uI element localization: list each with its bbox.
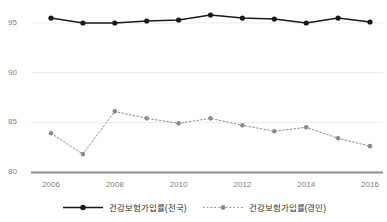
data-point — [272, 16, 277, 21]
data-point — [304, 125, 309, 130]
data-point — [208, 12, 213, 17]
data-point — [80, 20, 85, 25]
data-point — [48, 15, 53, 20]
y-tick-label-90: 90 — [8, 68, 17, 77]
data-point — [144, 18, 149, 23]
x-tick-label-2008: 2008 — [106, 180, 124, 189]
x-tick-label-2006: 2006 — [42, 180, 60, 189]
x-tick-label-2010: 2010 — [170, 180, 188, 189]
legend-swatch-icon — [61, 203, 105, 212]
chart-container: 80859095 200620082010201220142016 건강보험가입… — [0, 0, 387, 222]
data-point — [336, 15, 341, 20]
data-point — [240, 123, 245, 128]
data-point — [49, 131, 54, 136]
data-point — [240, 15, 245, 20]
data-point — [144, 116, 149, 121]
gridlines-group — [31, 23, 383, 122]
data-point — [336, 136, 341, 141]
data-point — [272, 129, 277, 134]
data-point — [367, 19, 372, 24]
legend-entry-region[interactable]: 건강보험가입률(경인) — [201, 201, 327, 213]
data-series-group — [48, 12, 372, 156]
data-point — [176, 121, 181, 126]
legend-label: 건강보험가입률(전국) — [109, 201, 187, 213]
x-tick-label-2014: 2014 — [297, 180, 315, 189]
y-tick-label-95: 95 — [8, 18, 17, 27]
y-tick-label-85: 85 — [8, 117, 17, 126]
data-point — [208, 116, 213, 121]
legend-label: 건강보험가입률(경인) — [249, 201, 327, 213]
legend-entry-national[interactable]: 건강보험가입률(전국) — [61, 201, 187, 213]
x-tick-label-2016: 2016 — [361, 180, 379, 189]
data-point — [304, 20, 309, 25]
y-tick-label-80: 80 — [8, 167, 17, 176]
data-point — [112, 20, 117, 25]
x-tick-label-2012: 2012 — [233, 180, 251, 189]
data-point — [113, 109, 118, 114]
data-point — [368, 144, 373, 149]
data-point — [176, 17, 181, 22]
chart-legend: 건강보험가입률(전국)건강보험가입률(경인) — [0, 198, 387, 216]
data-point — [81, 152, 86, 157]
legend-swatch-icon — [201, 203, 245, 212]
